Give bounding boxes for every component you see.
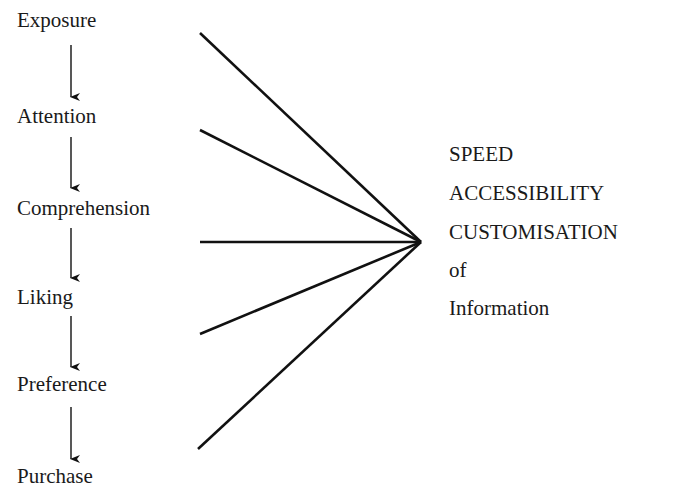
target-of: of (449, 260, 467, 281)
diagram-connectors (0, 0, 677, 499)
target-customisation: CUSTOMISATION (449, 222, 618, 243)
stage-exposure: Exposure (17, 10, 96, 31)
stage-preference: Preference (17, 374, 107, 395)
target-accessibility: ACCESSIBILITY (449, 183, 604, 204)
target-speed: SPEED (449, 144, 513, 165)
target-information: Information (449, 298, 549, 319)
stage-attention: Attention (17, 106, 96, 127)
stage-liking: Liking (17, 287, 73, 308)
stage-comprehension: Comprehension (17, 198, 150, 219)
converging-lines (198, 33, 421, 449)
converging-line-1 (200, 33, 421, 242)
converging-line-2 (200, 130, 421, 242)
converging-line-5 (198, 242, 421, 449)
converging-line-4 (200, 242, 421, 334)
stage-purchase: Purchase (17, 466, 93, 487)
